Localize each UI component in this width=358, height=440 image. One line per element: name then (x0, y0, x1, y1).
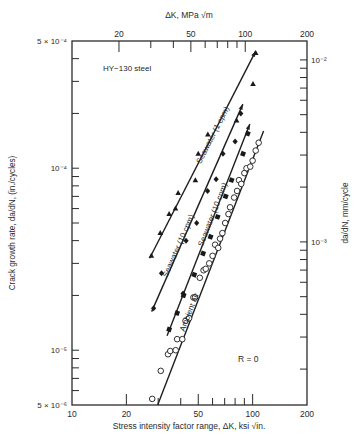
x-top-tick-label: 50 (186, 29, 196, 39)
x-tick-label: 50 (194, 409, 204, 419)
triangle-marker (173, 206, 179, 211)
diamond-marker (214, 176, 219, 182)
material-annotation: HY−130 steel (103, 64, 151, 73)
triangle-marker (175, 190, 181, 195)
y-tick-label: 5 × 10⁻⁴ (37, 37, 67, 46)
circle-marker (203, 266, 209, 272)
triangle-marker (193, 177, 199, 182)
square-marker (229, 177, 235, 183)
y-right-tick-label: 10⁻² (311, 56, 327, 65)
series-label-0: Seawater (1 cpm) (195, 105, 232, 166)
crack-growth-chart: 10205010020020501002005 × 10⁻⁴10⁻⁴10⁻⁵5 … (0, 0, 358, 440)
y-right-tick-label: 10⁻³ (311, 238, 327, 247)
square-marker (166, 327, 172, 333)
circle-marker (256, 140, 262, 146)
diamond-marker (194, 220, 199, 226)
x-tick-label: 100 (246, 409, 260, 419)
triangle-marker (166, 211, 172, 216)
circle-marker (227, 204, 233, 210)
y-tick-label: 10⁻⁴ (51, 164, 68, 173)
circle-marker (158, 368, 164, 374)
circle-marker (247, 164, 253, 170)
x-axis-label: Stress intensity factor range, ΔK, ksi √… (113, 421, 266, 431)
y-tick-label: 10⁻⁵ (51, 346, 67, 355)
series-label-2: Seawater (10 cpm) (196, 181, 229, 248)
x-tick-label: 200 (300, 409, 314, 419)
x-tick-label: 20 (122, 409, 132, 419)
square-marker (240, 151, 246, 157)
x-top-tick-label: 200 (300, 29, 314, 39)
series-label-1: Seawater (10 cpm) (161, 213, 197, 279)
circle-marker (210, 253, 216, 259)
r-ratio-annotation: R = 0 (238, 354, 259, 364)
circle-marker (231, 195, 237, 201)
circle-marker (253, 148, 259, 154)
circle-marker (217, 236, 223, 242)
x-top-tick-label: 100 (238, 29, 252, 39)
x-tick-label: 10 (67, 409, 77, 419)
circle-marker (215, 245, 221, 251)
circle-marker (206, 261, 212, 267)
circle-marker (173, 347, 179, 353)
line-end-marker (246, 124, 250, 130)
circle-marker (250, 158, 256, 164)
circle-marker (180, 336, 186, 342)
circle-marker (238, 181, 244, 187)
triangle-marker (253, 50, 259, 55)
triangle-marker (149, 253, 155, 258)
circle-marker (197, 275, 203, 281)
triangle-marker (250, 81, 256, 86)
circle-marker (222, 220, 228, 226)
square-marker (200, 251, 206, 257)
x-top-tick-label: 20 (114, 29, 124, 39)
circle-marker (234, 188, 240, 194)
circle-marker (149, 396, 155, 402)
circle-marker (220, 230, 226, 236)
series-labels: Seawater (1 cpm)Seawater (10 cpm)Seawate… (161, 105, 232, 333)
y-axis-label: Crack growth rate, da/dN, (in./cycles) (8, 155, 17, 290)
triangle-marker (234, 117, 240, 122)
diamond-marker (233, 139, 238, 145)
diamond-marker (220, 151, 225, 157)
circle-marker (167, 348, 173, 354)
circle-marker (226, 211, 232, 217)
y-tick-label: 5 × 10⁻⁶ (37, 401, 67, 410)
axes: 10205010020020501002005 × 10⁻⁴10⁻⁴10⁻⁵5 … (37, 29, 327, 419)
x-axis-top-label: ΔK, MPa √m (165, 10, 213, 20)
labels: ΔK, MPa √m Stress intensity factor range… (8, 10, 350, 431)
y-axis-right-label: da/dN, mm/cycle (341, 182, 350, 243)
line-end-marker (239, 104, 243, 110)
